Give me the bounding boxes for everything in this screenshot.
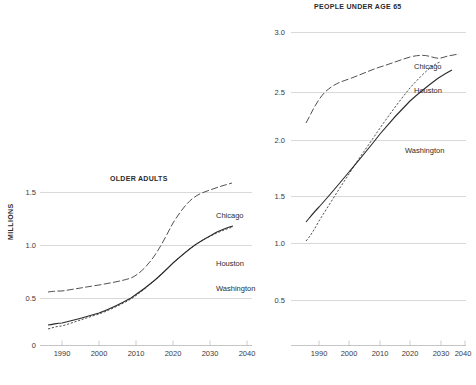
xtick-left-2010: 2010: [122, 349, 150, 358]
ytick-left-0: 0: [14, 341, 36, 350]
ytick-left-1.5: 1.5: [14, 188, 36, 197]
xtick-left-1990: 1990: [48, 349, 76, 358]
series-line-houston-left: [48, 227, 233, 329]
ytick-left-0.5: 0.5: [14, 294, 36, 303]
series-label-houston-left: Houston: [216, 259, 244, 268]
xtick-left-2030: 2030: [196, 349, 224, 358]
xtick-left-2040: 2040: [233, 349, 261, 358]
series-line-washington-left: [48, 226, 233, 325]
xtick-left-2000: 2000: [85, 349, 113, 358]
series-label-washington-left: Washington: [216, 284, 255, 293]
ytick-left-1.0: 1.0: [14, 241, 36, 250]
series-label-chicago-left: Chicago: [216, 211, 244, 220]
xtick-left-2020: 2020: [159, 349, 187, 358]
series-line-chicago-left: [48, 183, 232, 292]
